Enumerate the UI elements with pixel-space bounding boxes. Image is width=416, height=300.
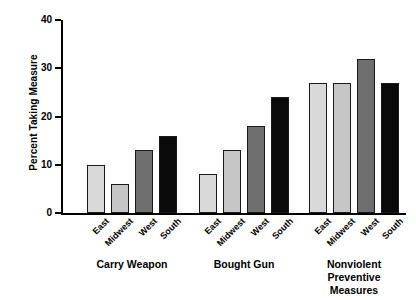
category-label-west: West bbox=[359, 216, 381, 238]
bar-3-west bbox=[357, 59, 375, 213]
category-label-east: East bbox=[313, 216, 334, 237]
bar-3-midwest bbox=[333, 83, 351, 213]
group-label-1: Carry Weapon bbox=[97, 258, 168, 271]
y-tick-label: 30 bbox=[41, 63, 52, 73]
category-label-south: South bbox=[380, 216, 405, 241]
category-label-south: South bbox=[270, 216, 295, 241]
bar-2-east bbox=[199, 174, 217, 213]
bar-2-west bbox=[247, 126, 265, 213]
category-label-south: South bbox=[158, 216, 183, 241]
bar-1-east bbox=[87, 165, 105, 213]
bar-3-east bbox=[309, 83, 327, 213]
bar-1-west bbox=[135, 150, 153, 213]
group-label-2: Bought Gun bbox=[214, 258, 275, 271]
group-label-3: Nonviolent Preventive Measures bbox=[327, 258, 381, 297]
category-labels: EastMidwestWestSouthEastMidwestWestSouth… bbox=[61, 216, 406, 256]
category-label-east: East bbox=[91, 216, 112, 237]
y-axis-title: Percent Taking Measure bbox=[28, 23, 39, 203]
bar-3-south bbox=[381, 83, 399, 213]
bars-layer bbox=[61, 20, 406, 214]
bar-chart: Percent Taking Measure 010203040 EastMid… bbox=[0, 0, 416, 300]
bar-1-south bbox=[159, 136, 177, 213]
y-tick-label: 20 bbox=[41, 112, 52, 122]
y-tick-label: 10 bbox=[41, 160, 52, 170]
category-label-west: West bbox=[249, 216, 271, 238]
category-label-west: West bbox=[137, 216, 159, 238]
plot-area: 010203040 bbox=[61, 20, 406, 214]
bar-2-south bbox=[271, 97, 289, 213]
bar-1-midwest bbox=[111, 184, 129, 213]
y-tick-label: 0 bbox=[46, 208, 52, 218]
bar-2-midwest bbox=[223, 150, 241, 213]
group-labels: Carry WeaponBought GunNonviolent Prevent… bbox=[61, 258, 406, 298]
y-tick-label: 40 bbox=[41, 15, 52, 25]
category-label-east: East bbox=[203, 216, 224, 237]
